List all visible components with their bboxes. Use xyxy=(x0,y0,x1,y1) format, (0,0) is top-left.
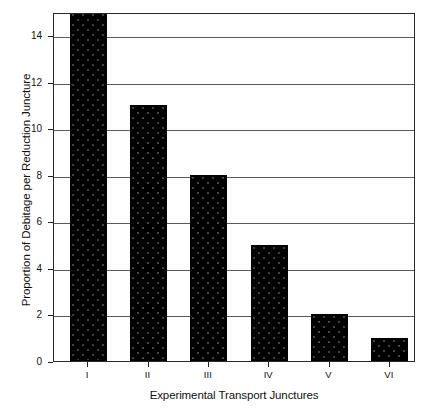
x-axis-title: Experimental Transport Junctures xyxy=(53,388,415,402)
x-axis-tick-marks xyxy=(53,362,415,367)
x-axis-tick-label: VI xyxy=(369,369,409,381)
x-axis-tick-labels: IIIIIIIVVVI xyxy=(53,369,415,383)
y-axis-tick-label: 2 xyxy=(20,310,42,320)
x-axis-tick-label: IV xyxy=(248,369,288,381)
y-axis-tick-label: 8 xyxy=(20,171,42,181)
x-axis-tick-label: I xyxy=(67,369,107,381)
y-axis-tick-label: 10 xyxy=(20,124,42,134)
bar-chart: Proportion of Debitage per Reduction Jun… xyxy=(0,0,425,413)
x-axis-tick-mark xyxy=(329,362,330,367)
bar xyxy=(251,245,288,361)
bar xyxy=(130,105,167,361)
x-axis-tick-mark xyxy=(87,362,88,367)
bar xyxy=(190,175,227,361)
x-axis-tick-mark xyxy=(268,362,269,367)
bar xyxy=(70,13,107,361)
x-axis-tick-mark xyxy=(148,362,149,367)
y-axis-tick-label: 14 xyxy=(20,31,42,41)
bar xyxy=(311,314,348,361)
bars-layer xyxy=(54,14,414,361)
y-axis-tick-label: 12 xyxy=(20,78,42,88)
bar xyxy=(371,338,408,361)
x-axis-tick-mark xyxy=(389,362,390,367)
x-axis-tick-label: III xyxy=(188,369,228,381)
y-axis-tick-labels: 02468101214 xyxy=(20,0,42,413)
x-axis-tick-label: V xyxy=(309,369,349,381)
y-axis-tick-label: 0 xyxy=(20,357,42,367)
x-axis-tick-mark xyxy=(208,362,209,367)
x-axis-tick-label: II xyxy=(128,369,168,381)
y-axis-tick-label: 6 xyxy=(20,217,42,227)
plot-area xyxy=(53,13,415,362)
y-axis-tick-label: 4 xyxy=(20,264,42,274)
